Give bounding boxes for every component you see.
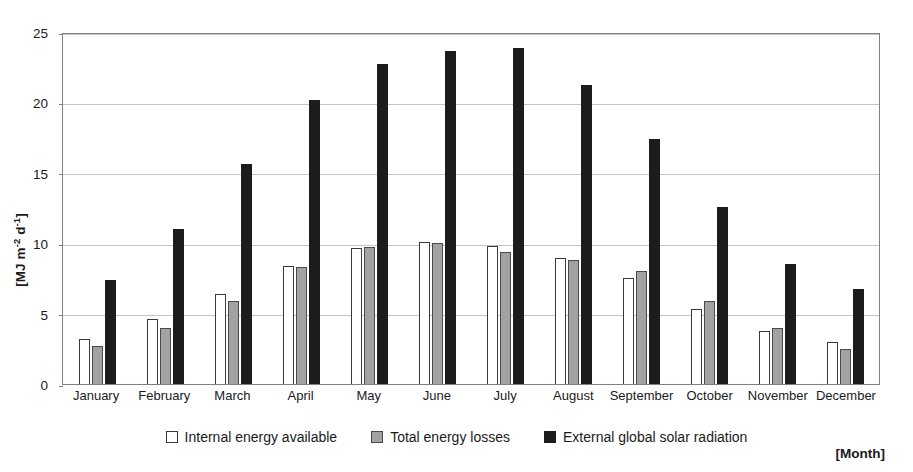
- x-axis-tick-label: February: [130, 388, 198, 412]
- x-axis-tick-label: August: [539, 388, 607, 412]
- bar: [364, 247, 375, 384]
- bar: [827, 342, 838, 384]
- bar: [717, 207, 728, 384]
- bar-group: [675, 34, 743, 384]
- x-axis-tick-label: September: [607, 388, 675, 412]
- bar-group: [335, 34, 403, 384]
- bar-group: [403, 34, 471, 384]
- legend-label: Internal energy available: [185, 429, 338, 445]
- bar: [445, 51, 456, 384]
- legend-swatch-icon: [166, 431, 178, 443]
- y-axis-tick-label: 15: [33, 166, 48, 181]
- legend-item[interactable]: Total energy losses: [371, 429, 510, 445]
- bar: [309, 100, 320, 384]
- bar: [105, 280, 116, 384]
- x-axis-tick-label: January: [62, 388, 130, 412]
- x-axis-title: [Month]: [836, 446, 885, 461]
- legend-swatch-icon: [544, 431, 556, 443]
- bar-group: [131, 34, 199, 384]
- plot-area: [62, 33, 880, 385]
- legend-item[interactable]: External global solar radiation: [544, 429, 747, 445]
- bar: [840, 349, 851, 384]
- bar: [704, 301, 715, 384]
- bar: [241, 164, 252, 384]
- bar-group: [743, 34, 811, 384]
- bar-group: [63, 34, 131, 384]
- bar: [623, 278, 634, 384]
- bar: [173, 229, 184, 384]
- bar: [92, 346, 103, 384]
- y-axis-tick-label: 0: [40, 378, 48, 393]
- bar: [513, 48, 524, 384]
- bar-group: [199, 34, 267, 384]
- bar: [351, 248, 362, 384]
- legend-label: External global solar radiation: [563, 429, 747, 445]
- bar-group: [811, 34, 879, 384]
- y-axis-tick-label: 5: [40, 307, 48, 322]
- x-axis-tick-label: December: [812, 388, 880, 412]
- bar: [432, 243, 443, 384]
- y-axis-tick-label: 10: [33, 237, 48, 252]
- x-axis-tick-label: March: [198, 388, 266, 412]
- bar-group: [267, 34, 335, 384]
- bar: [147, 319, 158, 384]
- bar-group: [539, 34, 607, 384]
- legend-swatch-icon: [371, 431, 383, 443]
- bar: [500, 252, 511, 384]
- legend-item[interactable]: Internal energy available: [166, 429, 338, 445]
- chart-figure: [MJ m-2 d-1] 0510152025 JanuaryFebruaryM…: [0, 0, 913, 472]
- chart-legend: Internal energy availableTotal energy lo…: [0, 424, 913, 450]
- bar-groups: [63, 34, 879, 384]
- bar: [759, 331, 770, 384]
- bar: [419, 242, 430, 384]
- x-axis-labels: JanuaryFebruaryMarchAprilMayJuneJulyAugu…: [62, 388, 880, 412]
- bar: [296, 267, 307, 384]
- bar-group: [471, 34, 539, 384]
- y-axis-tick-label: 20: [33, 96, 48, 111]
- bar: [568, 260, 579, 384]
- x-axis-tick-label: November: [744, 388, 812, 412]
- bar: [853, 289, 864, 384]
- x-axis-tick-label: July: [471, 388, 539, 412]
- y-axis-ticks: 0510152025: [0, 0, 56, 472]
- bar: [555, 258, 566, 384]
- bar: [487, 246, 498, 384]
- x-axis-tick-label: June: [403, 388, 471, 412]
- bar: [636, 271, 647, 384]
- legend-label: Total energy losses: [390, 429, 510, 445]
- x-axis-tick-label: April: [267, 388, 335, 412]
- y-axis-tick-label: 25: [33, 26, 48, 41]
- bar: [581, 85, 592, 384]
- y-axis-tick-mark: [59, 386, 63, 387]
- bar: [160, 328, 171, 384]
- bar: [785, 264, 796, 384]
- x-axis-tick-label: October: [676, 388, 744, 412]
- bar: [772, 328, 783, 384]
- x-axis-tick-label: May: [335, 388, 403, 412]
- bar: [215, 294, 226, 384]
- bar: [283, 266, 294, 384]
- bar: [691, 309, 702, 384]
- bar: [649, 139, 660, 384]
- bar: [79, 339, 90, 384]
- bar: [228, 301, 239, 384]
- bar-group: [607, 34, 675, 384]
- bar: [377, 64, 388, 384]
